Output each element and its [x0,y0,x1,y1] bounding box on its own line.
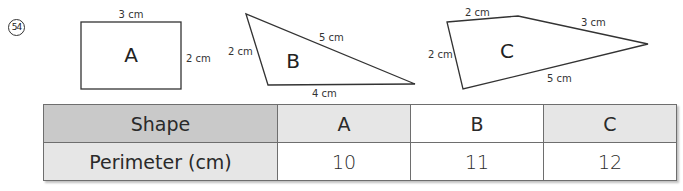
shape-a-top-label: 3 cm [119,9,144,20]
header-b: B [411,105,544,143]
shape-c-top-right-label: 3 cm [581,17,606,28]
shape-c-quadrilateral: 2 cm 3 cm 2 cm 5 cm C [428,7,648,89]
shape-b-left-label: 2 cm [228,46,253,57]
answer-b[interactable]: 11 [411,143,544,181]
perimeter-table: Shape A B C Perimeter (cm) 10 11 12 [43,104,677,181]
shape-b-bottom-label: 4 cm [312,88,337,99]
table-header-row: Shape A B C [44,105,677,143]
shape-a-name: A [124,43,138,67]
header-c: C [544,105,677,143]
shape-c-top-left-label: 2 cm [465,7,490,18]
answer-c[interactable]: 12 [544,143,677,181]
shapes-figure: 3 cm 2 cm A 2 cm 5 cm 4 cm B 2 cm 3 cm 2… [0,0,683,100]
shape-b-name: B [286,49,300,73]
header-a: A [278,105,411,143]
shape-c-bottom-label: 5 cm [547,73,572,84]
answer-a[interactable]: 10 [278,143,411,181]
shape-c-left-label: 2 cm [428,49,453,60]
shape-b-hypotenuse-label: 5 cm [319,32,344,43]
shape-c-name: C [500,39,514,63]
table-row: Perimeter (cm) 10 11 12 [44,143,677,181]
shape-a-rectangle: 3 cm 2 cm A [81,9,211,89]
header-shape: Shape [44,105,278,143]
shape-a-right-label: 2 cm [186,53,211,64]
shape-b-triangle: 2 cm 5 cm 4 cm B [228,14,415,99]
perimeter-label: Perimeter (cm) [44,143,278,181]
